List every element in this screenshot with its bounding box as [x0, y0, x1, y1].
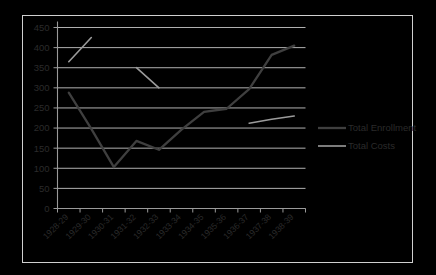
line-chart: 050100150200250300350400450 1928-291929-…	[0, 0, 436, 275]
y-axis-tick-label: 450	[34, 22, 50, 33]
y-axis-tick-label: 100	[34, 163, 50, 174]
y-axis-tick-label: 150	[34, 143, 50, 154]
y-axis-tick-label: 350	[34, 62, 50, 73]
legend-label: Total Enrollment	[348, 122, 416, 133]
legend-label: Total Costs	[348, 140, 395, 151]
y-axis-tick-label: 200	[34, 122, 50, 133]
y-axis-tick-label: 0	[44, 203, 49, 214]
y-axis-tick-label: 50	[39, 183, 50, 194]
chart-container: 050100150200250300350400450 1928-291929-…	[0, 0, 436, 275]
y-axis-tick-label: 400	[34, 42, 50, 53]
y-axis-tick-label: 300	[34, 82, 50, 93]
y-axis-tick-label: 250	[34, 102, 50, 113]
